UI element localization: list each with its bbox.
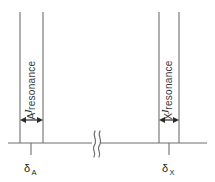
shift-label-a-symbol: δ xyxy=(24,162,30,174)
multiplet-a-resonance: A resonance J δ A xyxy=(20,12,43,177)
nmr-spectrum-canvas: A resonance J δ A X resonance J xyxy=(0,0,215,182)
shift-label-x-symbol: δ xyxy=(162,162,168,174)
shift-label-a: δ A xyxy=(24,162,37,177)
axis-break-icon xyxy=(93,131,100,157)
coupling-arrow-a-head-left xyxy=(20,117,26,123)
multiplet-x-resonance: X resonance J δ X xyxy=(159,12,179,177)
coupling-arrow-a-head-right xyxy=(37,117,43,123)
shift-label-x: δ X xyxy=(162,162,175,177)
coupling-arrow-x-head-right xyxy=(173,117,179,123)
shift-label-x-subscript: X xyxy=(169,168,174,177)
shift-label-a-subscript: A xyxy=(31,168,36,177)
nmr-spectrum-diagram: A resonance J δ A X resonance J xyxy=(0,0,215,182)
coupling-arrow-x-head-left xyxy=(159,117,165,123)
